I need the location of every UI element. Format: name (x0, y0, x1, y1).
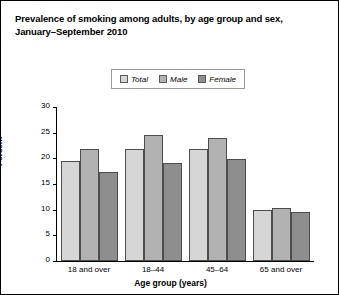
bar-male-1 (144, 135, 163, 261)
legend-label-male: Male (170, 75, 187, 84)
y-axis-label: Percent (0, 137, 4, 166)
legend-label-total: Total (131, 75, 148, 84)
bar-male-2 (208, 138, 227, 261)
y-axis-tick-label: 0 (46, 255, 50, 264)
bar-total-3 (253, 210, 272, 261)
bar-male-0 (80, 149, 99, 261)
y-axis-tick: 0 (1, 261, 57, 262)
y-axis-tick-label: 20 (41, 152, 50, 161)
y-axis-tick-label: 15 (41, 178, 50, 187)
y-axis-tick: 25 (1, 133, 57, 134)
y-axis-tick-label: 30 (41, 101, 50, 110)
y-axis-tick: 15 (1, 184, 57, 185)
y-axis-tick-label: 10 (41, 204, 50, 213)
chart-title-line-2: January–September 2010 (15, 26, 127, 37)
legend-swatch-male (159, 75, 167, 83)
y-axis-tick: 10 (1, 210, 57, 211)
chart-title-line-1: Prevalence of smoking among adults, by a… (15, 13, 283, 24)
chart-legend: Total Male Female (111, 69, 245, 89)
legend-swatch-female (198, 75, 206, 83)
bar-female-1 (163, 163, 182, 261)
legend-entry-female: Female (198, 75, 236, 84)
chart-title: Prevalence of smoking among adults, by a… (15, 12, 320, 38)
bar-total-2 (189, 149, 208, 261)
y-axis-tick: 20 (1, 158, 57, 159)
bar-groups (57, 107, 313, 261)
x-axis-tick-labels: 18 and over18–4445–6465 and over (57, 262, 313, 276)
bar-male-3 (272, 208, 291, 261)
chart-figure: Prevalence of smoking among adults, by a… (0, 0, 339, 295)
x-axis-label: Age group (years) (1, 278, 339, 288)
x-axis-tick-label: 65 and over (249, 262, 313, 276)
bar-female-3 (291, 212, 310, 261)
x-axis-tick-label: 18–44 (121, 262, 185, 276)
bar-total-0 (61, 161, 80, 261)
y-axis-tick-label: 25 (41, 127, 50, 136)
legend-swatch-total (120, 75, 128, 83)
x-axis-tick-label: 45–64 (185, 262, 249, 276)
bar-group (185, 107, 249, 261)
bar-female-2 (227, 159, 246, 261)
y-axis-tick: 5 (1, 235, 57, 236)
y-axis-tick: 30 (1, 107, 57, 108)
legend-label-female: Female (209, 75, 236, 84)
bar-group (121, 107, 185, 261)
legend-entry-male: Male (159, 75, 187, 84)
bar-group (249, 107, 313, 261)
bar-female-0 (99, 172, 118, 261)
y-axis-tick-label: 5 (46, 229, 50, 238)
bar-total-1 (125, 149, 144, 261)
legend-entry-total: Total (120, 75, 148, 84)
x-axis-tick-label: 18 and over (57, 262, 121, 276)
bar-group (57, 107, 121, 261)
